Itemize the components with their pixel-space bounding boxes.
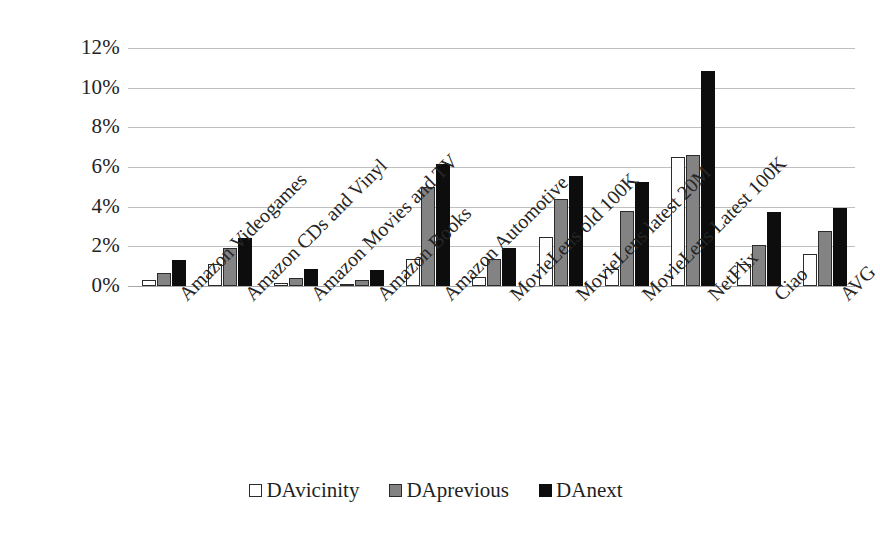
y-axis-tick-label: 10% xyxy=(46,77,120,98)
bar xyxy=(289,278,303,286)
y-axis-tick-labels: 12%10%8%6%4%2%0% xyxy=(46,0,120,534)
legend-item-danext[interactable]: DAnext xyxy=(539,480,623,501)
chart-legend: DAvicinityDApreviousDAnext xyxy=(0,480,872,501)
bar-group xyxy=(128,48,194,286)
bar xyxy=(157,273,171,286)
legend-item-davicinity[interactable]: DAvicinity xyxy=(249,480,359,501)
bar xyxy=(833,208,847,286)
bar xyxy=(767,212,781,286)
bar xyxy=(355,280,369,286)
legend-label: DAnext xyxy=(556,480,623,501)
legend-swatch-icon xyxy=(249,484,262,497)
y-axis-tick-label: 2% xyxy=(46,235,120,256)
legend-label: DAprevious xyxy=(406,480,509,501)
bar xyxy=(142,280,156,286)
gridline-0pct xyxy=(128,286,855,287)
y-axis-tick-label: 8% xyxy=(46,116,120,137)
legend-swatch-icon xyxy=(389,484,402,497)
y-axis-tick-label: 12% xyxy=(46,37,120,58)
y-axis-tick-label: 6% xyxy=(46,156,120,177)
bar-group xyxy=(789,48,855,286)
legend-item-daprevious[interactable]: DAprevious xyxy=(389,480,509,501)
y-axis-tick-label: 4% xyxy=(46,196,120,217)
bar xyxy=(818,231,832,286)
x-axis-category-labels: Amazon VideogamesAmazon CDs and VinylAma… xyxy=(128,290,855,420)
legend-swatch-icon xyxy=(539,484,552,497)
y-axis-tick-label: 0% xyxy=(46,275,120,296)
legend-label: DAvicinity xyxy=(266,480,359,501)
